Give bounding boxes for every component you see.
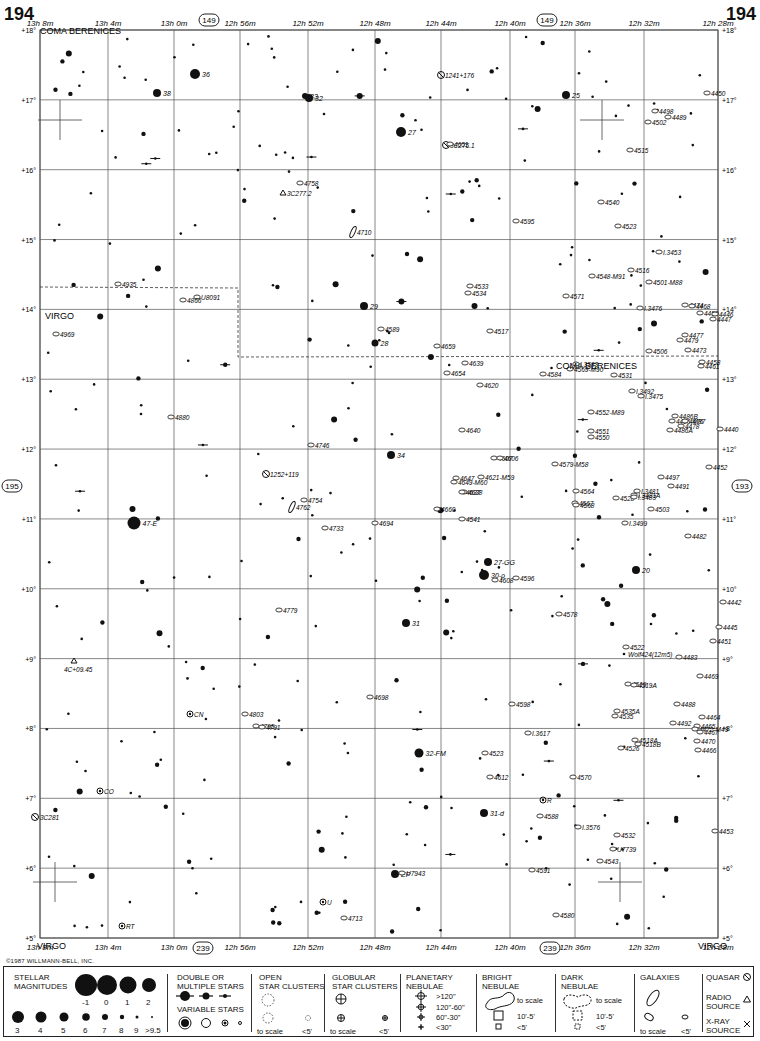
legend-note: to scale	[640, 1027, 666, 1036]
svg-text:I.3475: I.3475	[645, 393, 663, 400]
galaxy: 4654	[444, 370, 466, 377]
constellation-label: VIRGO	[698, 941, 727, 951]
svg-text:20: 20	[641, 567, 650, 574]
galaxy: 4501-M88	[646, 279, 683, 286]
svg-text:28: 28	[380, 340, 389, 347]
svg-text:4866: 4866	[187, 297, 202, 304]
mag-label: -1	[82, 998, 89, 1007]
svg-text:4710: 4710	[357, 229, 372, 236]
galaxy: 4637	[459, 489, 481, 496]
legend-note: to scale	[330, 1027, 356, 1036]
variable-star: CO	[97, 788, 114, 795]
star-chart: 13h 8m13h 4m13h 0m12h 56m12h 52m12h 48m1…	[0, 0, 760, 960]
svg-text:1252+119: 1252+119	[270, 471, 299, 478]
star	[632, 566, 640, 574]
legend-galaxies: GALAXIES to scale <5'	[637, 967, 701, 1036]
galaxy: 4473	[685, 347, 707, 354]
svg-text:4621-M59: 4621-M59	[485, 474, 515, 481]
legend-note: <30"	[436, 1023, 451, 1032]
svg-text:4501-M88: 4501-M88	[653, 279, 683, 286]
adjacent-chart-bottom-link[interactable]: 239	[540, 942, 560, 954]
legend-globular-clusters: GLOBULAR STAR CLUSTERS to scale <5'	[327, 967, 399, 1036]
svg-text:239: 239	[196, 944, 210, 953]
galaxy: 4548-M91	[589, 273, 626, 280]
galaxy: I.3617	[525, 730, 551, 737]
adjacent-chart-left-link[interactable]: 195	[2, 480, 22, 492]
galaxy: 4579-M58	[552, 461, 589, 468]
legend-note: 120"-60"	[436, 1003, 465, 1012]
galaxy: 4571	[563, 293, 585, 300]
galaxy: 4758	[297, 180, 319, 187]
svg-text:12h 32m: 12h 32m	[628, 19, 659, 28]
galaxy: 4591	[529, 867, 551, 874]
mag-label: 0	[104, 998, 108, 1007]
svg-text:4452: 4452	[713, 464, 728, 471]
galaxy: 1241+176	[438, 72, 475, 79]
star	[415, 749, 424, 758]
svg-text:4535: 4535	[619, 713, 634, 720]
adjacent-chart-right-link[interactable]: 193	[732, 480, 752, 492]
galaxy: 4470	[694, 738, 716, 745]
adjacent-chart-top-link[interactable]: 149	[199, 14, 219, 26]
star	[305, 94, 313, 102]
svg-text:4935: 4935	[122, 281, 137, 288]
svg-text:4779: 4779	[283, 607, 298, 614]
svg-text:4598: 4598	[516, 701, 531, 708]
galaxy: 4491	[668, 483, 690, 490]
svg-text:4532: 4532	[621, 832, 636, 839]
galaxy: 4523	[615, 223, 637, 230]
galaxy: 4452	[706, 464, 728, 471]
galaxy: 4466	[695, 747, 717, 754]
legend-bright-nebulae: BRIGHT NEBULAE to scale 10'-5' <5'	[479, 967, 554, 1036]
svg-text:4523: 4523	[622, 223, 637, 230]
svg-text:RT: RT	[126, 923, 136, 930]
svg-text:193: 193	[735, 482, 749, 491]
galaxy: 4442	[720, 599, 742, 606]
svg-text:+17°: +17°	[722, 97, 737, 104]
svg-text:4654: 4654	[451, 370, 466, 377]
svg-text:4640: 4640	[466, 427, 481, 434]
svg-text:+18°: +18°	[21, 27, 36, 34]
galaxy: 4541	[459, 516, 481, 523]
galaxy: 4503	[648, 506, 670, 513]
adjacent-chart-bottom-link[interactable]: 239	[193, 942, 213, 954]
galaxy: 4502	[645, 119, 667, 126]
svg-text:4464: 4464	[706, 714, 721, 721]
galaxy: 4660	[434, 506, 456, 513]
legend-quasar-radio-xray: QUASAR RADIO SOURCE X-RAY SOURCE	[704, 967, 754, 1036]
svg-text:4791: 4791	[266, 724, 281, 731]
svg-text:34: 34	[397, 452, 405, 459]
svg-text:U8091: U8091	[201, 294, 221, 301]
svg-text:+6°: +6°	[25, 865, 36, 872]
galaxy: 4640	[459, 427, 481, 434]
axis-labels: 13h 8m13h 4m13h 0m12h 56m12h 52m12h 48m1…	[2, 14, 752, 954]
svg-text:4543: 4543	[604, 858, 619, 865]
galaxy: 4713	[341, 915, 363, 922]
svg-text:4489: 4489	[672, 114, 687, 121]
svg-text:12h 52m: 12h 52m	[292, 943, 323, 952]
svg-text:+13°: +13°	[722, 376, 737, 383]
svg-text:47-E: 47-E	[143, 520, 158, 527]
galaxy: I.3576	[575, 824, 601, 831]
svg-text:+7°: +7°	[722, 795, 733, 802]
mag-label: 4	[38, 1026, 42, 1035]
galaxy: 4535	[612, 713, 634, 720]
galaxy: 4754	[301, 497, 323, 504]
adjacent-chart-top-link[interactable]: 149	[537, 14, 557, 26]
galaxy: 4589	[378, 326, 400, 333]
svg-text:4591: 4591	[536, 867, 551, 874]
galaxy: 4620	[477, 382, 499, 389]
galaxy: 4880	[168, 414, 190, 421]
xray-source-icon	[744, 1021, 750, 1027]
svg-text:I.3617: I.3617	[532, 730, 550, 737]
svg-text:4580: 4580	[560, 912, 575, 919]
star	[153, 89, 161, 97]
legend-note: 10'-5'	[596, 1012, 614, 1021]
star	[480, 809, 488, 817]
galaxy: 4440	[717, 426, 739, 433]
galaxy: 4698	[367, 694, 389, 701]
galaxy: 4451	[710, 638, 732, 645]
svg-text:12h 48m: 12h 48m	[359, 19, 390, 28]
constellation-label: VIRGO	[37, 941, 66, 951]
svg-text:CO: CO	[104, 788, 114, 795]
